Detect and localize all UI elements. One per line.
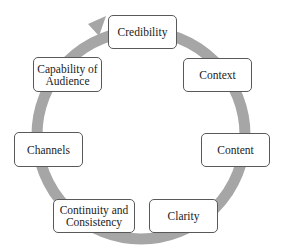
node-label: Clarity [168, 210, 200, 222]
node-label: Credibility [118, 26, 168, 38]
node-clarity: Clarity [149, 199, 218, 233]
node-content: Content [201, 133, 270, 167]
node-credibility: Credibility [108, 15, 177, 49]
node-capability-of-audience: Capability of Audience [33, 57, 102, 92]
node-context: Context [183, 58, 252, 92]
node-label: Capability of Audience [34, 63, 101, 87]
node-label: Continuity and Consistency [54, 204, 134, 228]
node-label: Content [217, 144, 253, 156]
node-label: Context [199, 69, 235, 81]
node-continuity-consistency: Continuity and Consistency [53, 199, 135, 233]
node-label: Channels [27, 144, 70, 156]
node-channels: Channels [14, 132, 83, 167]
